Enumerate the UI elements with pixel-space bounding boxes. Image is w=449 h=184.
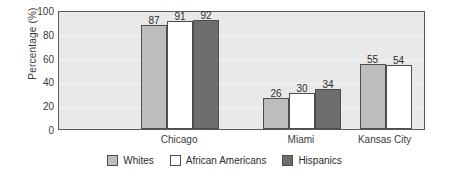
bar-value-label: 34 (322, 79, 333, 90)
legend-swatch-icon (170, 155, 181, 166)
bar-kansas-city-whites (360, 64, 386, 129)
x-axis-label-chicago: Chicago (161, 134, 198, 145)
bar-value-label: 30 (296, 83, 307, 94)
legend-label: Whites (123, 155, 154, 166)
legend-label: African Americans (186, 155, 267, 166)
bar-miami-african-americans (289, 93, 315, 129)
bar-value-label: 55 (367, 54, 378, 65)
legend-item-whites[interactable]: Whites (107, 155, 154, 166)
legend-swatch-icon (282, 155, 293, 166)
y-axis-tick-100: 100 (37, 6, 54, 17)
x-axis-label-kansas-city: Kansas City (358, 134, 411, 145)
x-axis-category-labels: ChicagoMiamiKansas City (58, 134, 425, 150)
y-axis-tick-labels: 020406080100 (28, 11, 54, 130)
bar-value-label: 92 (201, 10, 212, 21)
bar-value-label: 87 (149, 15, 160, 26)
bar-kansas-city-african-americans (386, 65, 412, 129)
bar-miami-hispanics (315, 89, 341, 129)
bar-value-label: 91 (175, 11, 186, 22)
y-axis-tick-0: 0 (48, 125, 54, 136)
y-axis-tick-80: 80 (43, 29, 54, 40)
y-axis-tick-60: 60 (43, 53, 54, 64)
bar-chart-figure: Percentage (%) 020406080100 879192263034… (0, 0, 449, 184)
legend-item-hispanics[interactable]: Hispanics (282, 155, 341, 166)
bar-value-label: 26 (270, 88, 281, 99)
bar-value-label: 54 (393, 55, 404, 66)
legend-item-african-americans[interactable]: African Americans (170, 155, 267, 166)
legend-label: Hispanics (298, 155, 341, 166)
legend-swatch-icon (107, 155, 118, 166)
bar-chicago-african-americans (167, 21, 193, 129)
y-axis-tick-20: 20 (43, 101, 54, 112)
bar-chicago-hispanics (193, 20, 219, 129)
bar-chicago-whites (141, 25, 167, 129)
bar-miami-whites (263, 98, 289, 129)
y-axis-tick-40: 40 (43, 77, 54, 88)
bar-series-container: 8791922630345554 (59, 12, 424, 129)
x-axis-label-miami: Miami (288, 134, 315, 145)
chart-legend: WhitesAfrican AmericansHispanics (0, 155, 449, 166)
plot-area: 8791922630345554 (58, 11, 425, 130)
